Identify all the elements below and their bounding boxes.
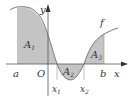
area-diagram: y x O a b f x1 x2 A1 A2 A3 xyxy=(0,0,133,99)
region-a1 xyxy=(17,7,57,64)
b-label: b xyxy=(100,68,106,79)
a-label: a xyxy=(13,68,19,79)
y-label: y xyxy=(39,4,46,15)
x2-label: x2 xyxy=(80,84,89,95)
f-label: f xyxy=(99,17,106,28)
x-axis-arrow-icon xyxy=(121,62,128,67)
y-axis-arrow-icon xyxy=(46,4,51,12)
origin-label: O xyxy=(37,68,45,79)
x1-label: x1 xyxy=(52,84,61,95)
x-label: x xyxy=(114,68,120,79)
